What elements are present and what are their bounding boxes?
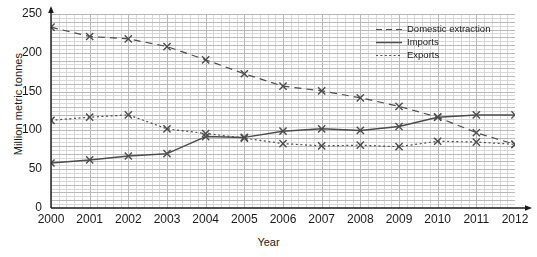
legend-label: Imports [407,36,439,48]
legend-item: Imports [376,36,490,48]
legend-item: Exports [376,49,490,61]
y-tick-label: 150 [0,84,42,98]
legend-label: Exports [407,49,439,61]
legend-line-sample [376,50,402,60]
line-chart: Million metric tonnes Year 0501001502002… [0,0,537,257]
legend-label: Domestic extraction [407,23,490,35]
legend-line-sample [376,37,402,47]
x-tick-label: 2012 [492,212,537,226]
y-tick-label: 100 [0,122,42,136]
x-axis-title: Year [0,236,537,248]
y-tick-label: 200 [0,45,42,59]
legend: Domestic extractionImportsExports [376,23,490,62]
y-tick-label: 50 [0,161,42,175]
legend-item: Domestic extraction [376,23,490,35]
legend-line-sample [376,24,402,34]
y-tick-label: 250 [0,6,42,20]
